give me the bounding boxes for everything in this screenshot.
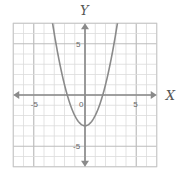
x-tick-label: 5 (133, 100, 138, 109)
y-axis-arrow-down-icon (81, 161, 89, 167)
x-axis-label: X (165, 88, 176, 103)
y-axis-arrow-up-icon (81, 23, 89, 29)
x-axis-arrow-left-icon (13, 91, 19, 99)
axes (13, 23, 157, 167)
x-tick-label: -5 (31, 100, 39, 109)
y-axis-label: Y (80, 3, 90, 18)
x-axis-arrow-right-icon (151, 91, 157, 99)
y-tick-label: -5 (73, 142, 81, 151)
parabola-chart: -5055-5 X Y (0, 0, 183, 170)
y-tick-label: 5 (76, 40, 81, 49)
x-tick-label: 0 (79, 100, 84, 109)
